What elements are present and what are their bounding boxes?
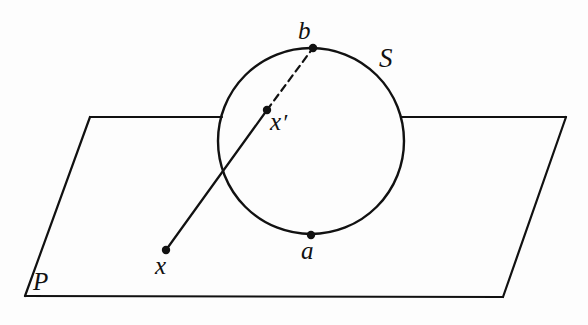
label-point-a: a <box>301 238 314 263</box>
label-point-x-prime-mark: ′ <box>281 109 287 135</box>
stereographic-projection-figure: b S x′ a x P <box>0 0 588 325</box>
plane-right-edge <box>503 117 566 297</box>
point-b-marker <box>309 44 317 52</box>
label-sphere-s: S <box>379 45 393 72</box>
label-point-b: b <box>298 18 311 43</box>
label-point-x-prime: x′ <box>270 109 287 135</box>
label-point-x-prime-base: x <box>270 108 281 135</box>
ray-x-prime-to-b <box>267 48 313 110</box>
ray-x-to-x-prime <box>166 110 267 250</box>
label-plane-p: P <box>33 269 48 294</box>
diagram-canvas <box>0 0 588 325</box>
plane-parallelogram <box>25 117 566 297</box>
plane-bottom-edge <box>25 296 503 297</box>
label-point-x: x <box>155 253 166 278</box>
